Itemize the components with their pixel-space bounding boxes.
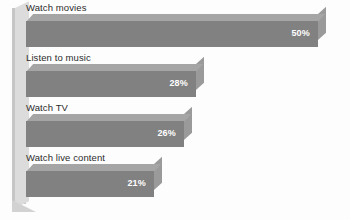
- bar-watch-tv[interactable]: 26%: [26, 114, 184, 140]
- bar-end-cap: [154, 157, 162, 190]
- bar-end-cap: [184, 107, 192, 140]
- bar-value-label: 50%: [291, 28, 310, 38]
- bar-end-cap: [318, 7, 326, 40]
- bar-value-label: 21%: [127, 178, 146, 188]
- bar-front-face: [26, 21, 318, 47]
- bar-category-label: Listen to music: [26, 52, 91, 63]
- bar-value-label: 26%: [157, 128, 176, 138]
- axis-wall: [12, 8, 26, 204]
- bar-listen-to-music[interactable]: 28%: [26, 64, 196, 90]
- bar-watch-live-content[interactable]: 21%: [26, 164, 154, 190]
- bar-category-label: Watch movies: [26, 2, 87, 13]
- bar-end-cap: [196, 57, 204, 90]
- bar-category-label: Watch TV: [26, 102, 68, 113]
- bar-value-label: 28%: [169, 78, 188, 88]
- bar-watch-movies[interactable]: 50%: [26, 14, 318, 40]
- bar-category-label: Watch live content: [26, 152, 105, 163]
- bar-chart: Watch movies 50% Listen to music 28% Wat…: [0, 0, 350, 220]
